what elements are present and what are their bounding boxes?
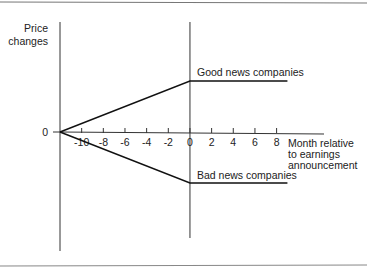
x-tick-label: 0 bbox=[187, 136, 193, 148]
x-tick-label: -2 bbox=[164, 136, 173, 148]
x-axis-label-line-3: announcement bbox=[288, 159, 358, 171]
series-label-good-news: Good news companies bbox=[197, 66, 304, 78]
y-axis-label-line-1: Price bbox=[24, 22, 48, 34]
x-axis bbox=[60, 132, 324, 134]
x-tick-label: -6 bbox=[120, 136, 129, 148]
x-tick-label: 6 bbox=[252, 136, 258, 148]
bottom-border bbox=[0, 265, 367, 266]
x-tick-label: 2 bbox=[209, 136, 215, 148]
x-tick-group: -10-8-6-4-202468 bbox=[74, 128, 280, 148]
x-tick-label: 8 bbox=[274, 136, 280, 148]
x-tick-label: 4 bbox=[230, 136, 236, 148]
y-zero-label: 0 bbox=[42, 126, 48, 138]
series-line-good-news bbox=[60, 81, 287, 132]
top-border bbox=[0, 2, 367, 3]
series-label-bad-news: Bad news companies bbox=[197, 169, 297, 181]
event-study-chart: -10-8-6-4-202468 Price changes 0 Month r… bbox=[0, 0, 367, 269]
y-axis-label-line-2: changes bbox=[8, 35, 48, 47]
x-tick-label: -4 bbox=[142, 136, 151, 148]
x-tick-label: -8 bbox=[99, 136, 108, 148]
